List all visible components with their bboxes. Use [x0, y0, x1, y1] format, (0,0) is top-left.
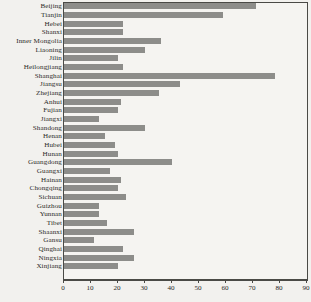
bar	[64, 90, 159, 96]
bar	[64, 185, 118, 191]
x-axis: 0102030405060708090	[63, 280, 308, 302]
bar-row: Chongqing	[0, 184, 311, 193]
category-label: Guizhou	[37, 202, 62, 210]
bar	[64, 246, 123, 252]
category-label: Hubei	[44, 141, 62, 149]
x-tick-label: 0	[61, 284, 65, 292]
bar-track	[64, 107, 307, 113]
x-axis-line	[63, 280, 308, 281]
bar	[64, 64, 123, 70]
x-tick	[171, 280, 172, 283]
x-tick-label: 80	[275, 284, 282, 292]
bar-track	[64, 177, 307, 183]
bar	[64, 255, 134, 261]
category-label: Jilin	[49, 54, 62, 62]
bar-rows: BeijingTianjinHebeiShanxiInner MongoliaL…	[0, 2, 311, 280]
bar-track	[64, 168, 307, 174]
bar-row: Jiangsu	[0, 80, 311, 89]
x-tick	[306, 280, 307, 283]
bar-row: Tibet	[0, 219, 311, 228]
bar-track	[64, 229, 307, 235]
x-tick	[144, 280, 145, 283]
bar-track	[64, 159, 307, 165]
bar-row: Hebei	[0, 19, 311, 28]
bar-track	[64, 55, 307, 61]
bar-track	[64, 151, 307, 157]
bar-track	[64, 3, 307, 9]
bar-row: Guangdong	[0, 158, 311, 167]
bar-row: Gansu	[0, 236, 311, 245]
bar-track	[64, 246, 307, 252]
x-tick	[279, 280, 280, 283]
bar-track	[64, 185, 307, 191]
bar-row: Fujian	[0, 106, 311, 115]
bar-track	[64, 133, 307, 139]
bar	[64, 194, 126, 200]
category-label: Shanxi	[42, 28, 62, 36]
category-label: Heilongjiang	[24, 63, 62, 71]
bar-track	[64, 263, 307, 269]
category-label: Anhui	[44, 98, 62, 106]
bar	[64, 159, 172, 165]
bar	[64, 211, 99, 217]
category-label: Fujian	[43, 106, 62, 114]
bar	[64, 151, 118, 157]
category-label: Hunan	[43, 150, 62, 158]
bar-row: Shanghai	[0, 71, 311, 80]
x-tick-label: 10	[86, 284, 93, 292]
bar	[64, 177, 121, 183]
bar	[64, 29, 123, 35]
bar	[64, 220, 107, 226]
bar-row: Zhejiang	[0, 89, 311, 98]
bar-track	[64, 12, 307, 18]
category-label: Inner Mongolia	[16, 37, 62, 45]
bar-row: Guangxi	[0, 167, 311, 176]
bar-track	[64, 73, 307, 79]
x-tick-label: 60	[221, 284, 228, 292]
x-tick-label: 20	[113, 284, 120, 292]
bar-track	[64, 29, 307, 35]
bar	[64, 99, 121, 105]
category-label: Tianjin	[41, 11, 62, 19]
bar	[64, 73, 275, 79]
category-label: Liaoning	[36, 46, 62, 54]
bar-row: Yunnan	[0, 210, 311, 219]
bar	[64, 142, 115, 148]
bar-row: Hainan	[0, 175, 311, 184]
bar-row: Ningxia	[0, 253, 311, 262]
category-label: Guangxi	[37, 167, 62, 175]
bar	[64, 55, 118, 61]
bar-track	[64, 194, 307, 200]
bar	[64, 107, 118, 113]
x-tick	[198, 280, 199, 283]
x-tick-label: 40	[167, 284, 174, 292]
bar-row: Hubei	[0, 141, 311, 150]
category-label: Guangdong	[28, 158, 62, 166]
bar-row: Jilin	[0, 54, 311, 63]
category-label: Jiangsu	[40, 80, 62, 88]
bar-row: Qinghai	[0, 245, 311, 254]
bar	[64, 168, 110, 174]
category-label: Zhejiang	[36, 89, 62, 97]
x-tick	[63, 280, 64, 283]
bar-row: Inner Mongolia	[0, 37, 311, 46]
category-label: Tibet	[47, 219, 62, 227]
bar-track	[64, 90, 307, 96]
category-label: Shaanxi	[38, 228, 62, 236]
x-tick-label: 90	[302, 284, 309, 292]
bar-row: Beijing	[0, 2, 311, 11]
bar	[64, 116, 99, 122]
bar-chart: BeijingTianjinHebeiShanxiInner MongoliaL…	[0, 0, 311, 302]
bar	[64, 237, 94, 243]
x-tick	[252, 280, 253, 283]
x-tick-label: 50	[194, 284, 201, 292]
x-tick	[90, 280, 91, 283]
bar	[64, 263, 118, 269]
bar-track	[64, 125, 307, 131]
category-label: Hainan	[41, 176, 62, 184]
bar-row: Xinjiang	[0, 262, 311, 271]
x-tick-label: 30	[140, 284, 147, 292]
bar	[64, 229, 134, 235]
bar-track	[64, 255, 307, 261]
category-label: Henan	[43, 132, 62, 140]
